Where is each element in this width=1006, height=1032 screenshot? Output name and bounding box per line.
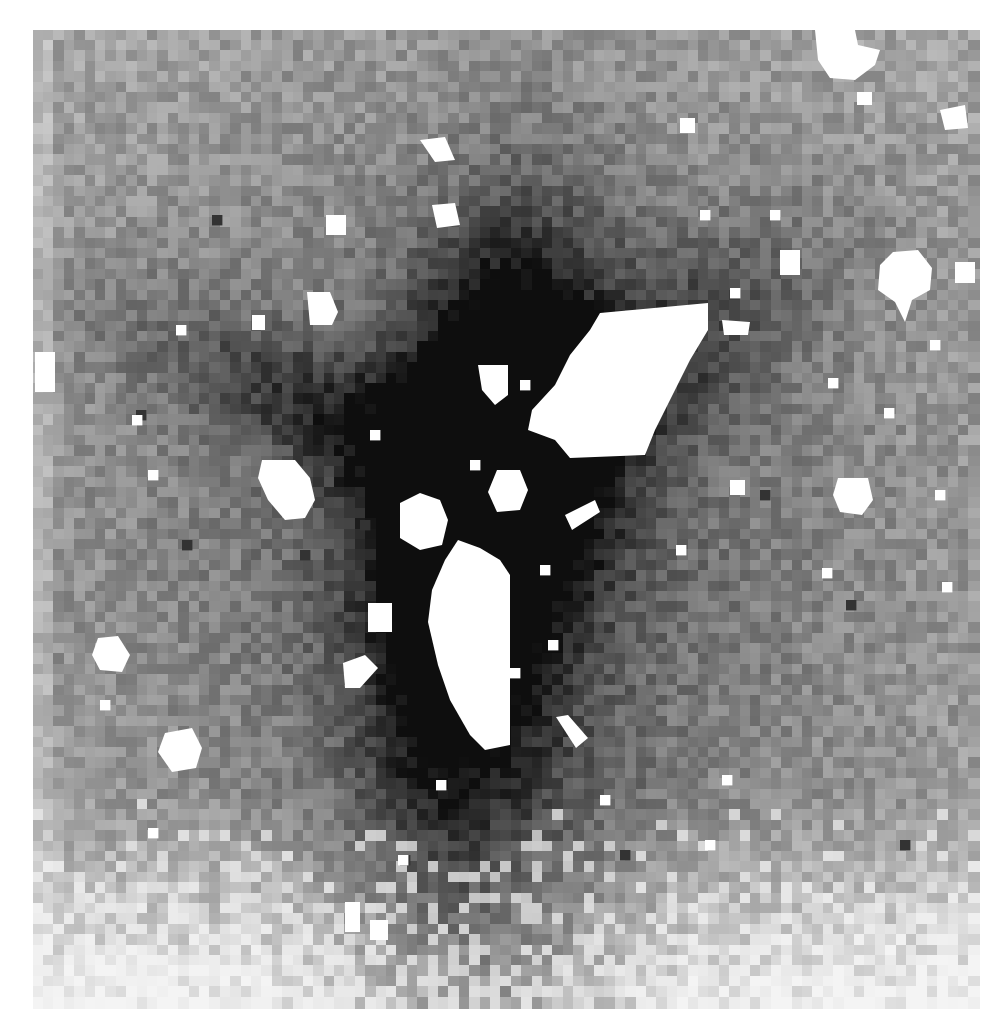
galaxy-image bbox=[0, 0, 1006, 1032]
galaxy-image-canvas bbox=[0, 0, 1006, 1032]
